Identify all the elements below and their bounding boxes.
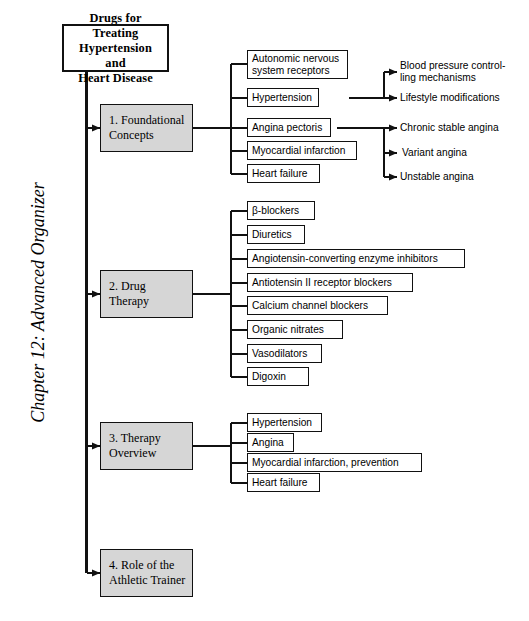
- topic-label: Angiotensin-converting enzyme inhibitors: [248, 253, 442, 265]
- section-node-drug-therapy[interactable]: 2. Drug Therapy: [100, 270, 193, 318]
- section-node-therapy-overview[interactable]: 3. Therapy Overview: [100, 422, 193, 470]
- topic-box-diuretics[interactable]: Diuretics: [247, 225, 305, 244]
- topic-label: Angina: [248, 437, 288, 449]
- topic-box-organic-nitrates[interactable]: Organic nitrates: [247, 320, 343, 339]
- topic-label: Hypertension: [248, 92, 316, 104]
- section-node-role-athletic-trainer[interactable]: 4. Role of the Athletic Trainer: [100, 549, 193, 597]
- topic-label: Antiotensin II receptor blockers: [248, 277, 396, 289]
- topic-label: Vasodilators: [248, 348, 311, 360]
- leaf-label-variant-angina: Variant angina: [402, 147, 529, 159]
- topic-box-calcium-channel-blockers[interactable]: Calcium channel blockers: [247, 296, 388, 315]
- topic-box-overview-hypertension[interactable]: Hypertension: [247, 413, 322, 432]
- topic-box-myocardial-infarction[interactable]: Myocardial infarction: [247, 141, 357, 160]
- topic-label: Hypertension: [248, 417, 316, 429]
- topic-label: Digoxin: [248, 371, 290, 383]
- topic-box-angiotensin-receptor-blockers[interactable]: Antiotensin II receptor blockers: [247, 273, 413, 292]
- section-label: 1. Foundational Concepts: [101, 113, 188, 143]
- topic-label: Myocardial infarction: [248, 145, 349, 157]
- topic-box-digoxin[interactable]: Digoxin: [247, 367, 309, 386]
- topic-box-hypertension[interactable]: Hypertension: [247, 88, 319, 107]
- topic-box-overview-angina[interactable]: Angina: [247, 433, 294, 452]
- section-label: 3. Therapy Overview: [101, 431, 165, 461]
- section-node-foundational-concepts[interactable]: 1. Foundational Concepts: [100, 104, 193, 152]
- section-label: 4. Role of the Athletic Trainer: [101, 558, 189, 588]
- leaf-label-blood-pressure-controlling-mechanisms: Blood pressure control- ling mechanisms: [400, 60, 529, 83]
- topic-box-ace-inhibitors[interactable]: Angiotensin-converting enzyme inhibitors: [247, 249, 465, 268]
- topic-label: Calcium channel blockers: [248, 300, 372, 312]
- topic-box-angina-pectoris[interactable]: Angina pectoris: [247, 118, 331, 137]
- topic-label: Myocardial infarction, prevention: [248, 457, 403, 469]
- topic-label: Heart failure: [248, 168, 312, 180]
- topic-label: Heart failure: [248, 477, 312, 489]
- topic-box-overview-heart-failure[interactable]: Heart failure: [247, 473, 320, 492]
- topic-label: Organic nitrates: [248, 324, 328, 336]
- topic-label: Diuretics: [248, 229, 296, 241]
- leaf-label-lifestyle-modifications: Lifestyle modifications: [400, 92, 529, 104]
- section-label: 2. Drug Therapy: [101, 279, 192, 309]
- advanced-organizer-diagram: Chapter 12: Advanced Organizer Drugs for…: [0, 0, 529, 621]
- topic-box-beta-blockers[interactable]: β-blockers: [247, 201, 315, 220]
- topic-box-heart-failure[interactable]: Heart failure: [247, 164, 320, 183]
- root-title-box: Drugs for Treating Hypertension and Hear…: [62, 24, 169, 72]
- topic-box-autonomic-nervous-system-receptors[interactable]: Autonomic nervous system receptors: [247, 50, 348, 79]
- leaf-label-unstable-angina: Unstable angina: [400, 171, 529, 183]
- topic-box-overview-mi-prevention[interactable]: Myocardial infarction, prevention: [247, 453, 422, 472]
- topic-label: β-blockers: [248, 205, 303, 217]
- chapter-label: Chapter 12: Advanced Organizer: [28, 173, 49, 433]
- root-title-text: Drugs for Treating Hypertension and Hear…: [64, 11, 167, 86]
- topic-label: Angina pectoris: [248, 122, 326, 134]
- leaf-label-chronic-stable-angina: Chronic stable angina: [400, 122, 529, 134]
- topic-box-vasodilators[interactable]: Vasodilators: [247, 344, 322, 363]
- topic-label: Autonomic nervous system receptors: [248, 53, 343, 76]
